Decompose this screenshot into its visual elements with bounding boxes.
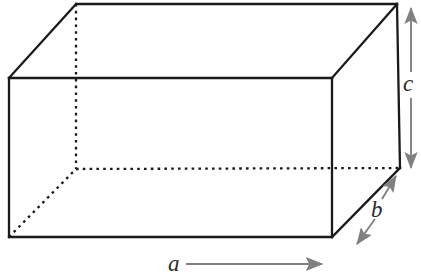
dimension-arrows-group bbox=[186, 8, 411, 264]
box-diagram-canvas bbox=[0, 0, 421, 279]
edge-back-right-vertical bbox=[397, 4, 400, 168]
edge-top-left-diagonal bbox=[9, 4, 76, 78]
edge-bottom-right-diagonal bbox=[332, 168, 400, 237]
hidden-edge-back-bottom-horizontal bbox=[76, 168, 400, 169]
dimension-label-b: b bbox=[371, 198, 383, 221]
edge-top-right-diagonal bbox=[332, 4, 397, 78]
dimension-arrow-b-lower-segment bbox=[357, 219, 375, 244]
hidden-edges-group bbox=[9, 4, 400, 237]
visible-edges-group bbox=[9, 4, 400, 237]
box-dimension-figure: a b c bbox=[0, 0, 421, 279]
dimension-label-c: c bbox=[403, 72, 413, 95]
hidden-edge-bottom-left-diagonal bbox=[9, 169, 76, 237]
dimension-label-a: a bbox=[168, 252, 180, 275]
